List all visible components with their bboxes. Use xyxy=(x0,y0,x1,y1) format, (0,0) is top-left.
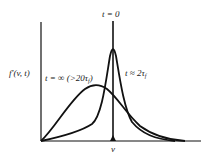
label-t-infinity: t = ∞ (>20τf) xyxy=(45,73,93,84)
narrow-peak-curve xyxy=(41,49,175,141)
distribution-diagram: t = 0 f'(v, t) t = ∞ (>20τf) t ≈ 2τf v xyxy=(0,0,213,158)
x-axis-label: v xyxy=(111,144,115,154)
spike-base-marker xyxy=(110,135,116,141)
y-axis-label: f'(v, t) xyxy=(9,68,30,78)
label-t-two-tau: t ≈ 2τf xyxy=(125,68,148,79)
label-t-zero: t = 0 xyxy=(102,9,120,19)
